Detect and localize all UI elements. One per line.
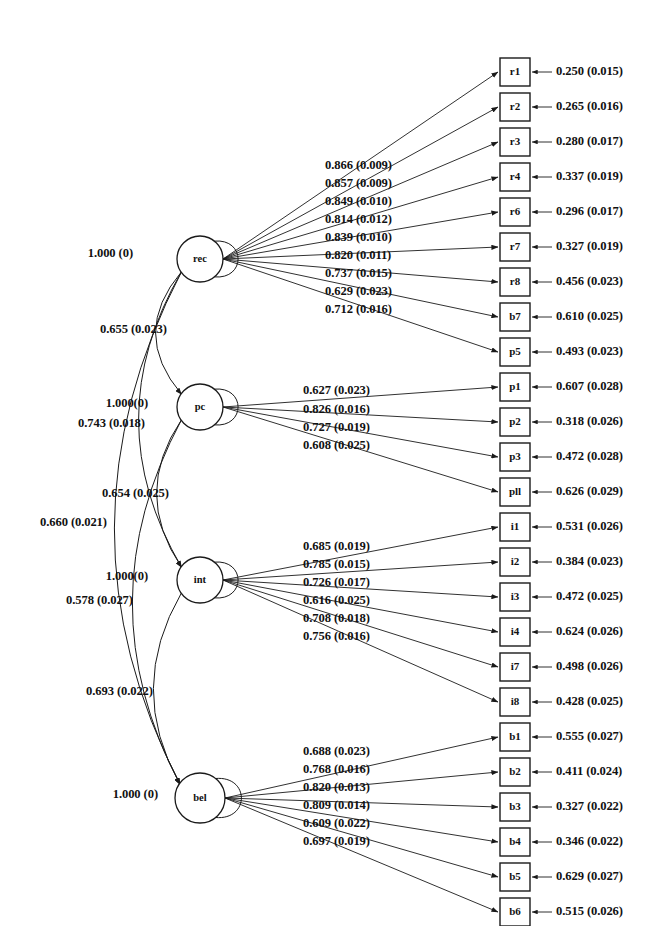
- latent-factor-label-bel: bel: [193, 792, 207, 803]
- residual-value-b4: 0.346 (0.022): [556, 834, 623, 848]
- residual-value-r3: 0.280 (0.017): [556, 134, 623, 148]
- indicator-label-b3: b3: [509, 800, 521, 812]
- latent-factor-label-int: int: [194, 574, 207, 585]
- loading-value-rec-8: 0.712 (0.016): [325, 302, 392, 316]
- loading-value-bel-4: 0.609 (0.022): [303, 816, 370, 830]
- residual-value-i1: 0.531 (0.026): [556, 519, 623, 533]
- loading-value-int-1: 0.785 (0.015): [303, 557, 370, 571]
- loading-value-pc-2: 0.727 (0.019): [303, 420, 370, 434]
- diagram-canvas: r1r2r3r4r6r7r8b7p5p1p2p3plli1i2i3i4i7i8b…: [0, 0, 656, 926]
- indicator-label-p3: p3: [509, 450, 521, 462]
- residual-value-b2: 0.411 (0.024): [556, 764, 622, 778]
- indicator-label-r7: r7: [510, 240, 521, 252]
- cov-pc-bel-label: 0.578 (0.027): [66, 593, 133, 607]
- residual-value-b7: 0.610 (0.025): [556, 309, 623, 323]
- indicator-label-r6: r6: [510, 205, 521, 217]
- residual-value-i2: 0.384 (0.023): [556, 554, 623, 568]
- residual-value-p5: 0.493 (0.023): [556, 344, 623, 358]
- parameter-text-layer: 0.250 (0.015)0.265 (0.016)0.280 (0.017)0…: [40, 64, 623, 918]
- rec-variance-label: 1.000 (0): [88, 246, 133, 260]
- loading-value-rec-2: 0.849 (0.010): [325, 194, 392, 208]
- loading-value-bel-5: 0.697 (0.019): [303, 834, 370, 848]
- bel-variance-label: 1.000 (0): [113, 787, 158, 801]
- residual-value-b5: 0.629 (0.027): [556, 869, 623, 883]
- residual-value-b6: 0.515 (0.026): [556, 904, 623, 918]
- indicator-label-b7: b7: [509, 310, 521, 322]
- indicator-label-b4: b4: [509, 835, 521, 847]
- loading-value-rec-7: 0.629 (0.023): [325, 284, 392, 298]
- residual-value-i8: 0.428 (0.025): [556, 694, 623, 708]
- residual-value-p1: 0.607 (0.028): [556, 379, 623, 393]
- indicator-label-i4: i4: [511, 625, 520, 637]
- residual-value-r7: 0.327 (0.019): [556, 239, 623, 253]
- loading-value-rec-5: 0.820 (0.011): [325, 248, 391, 262]
- cov-pc-bel-curve: [132, 420, 181, 785]
- loading-value-int-3: 0.616 (0.025): [303, 593, 370, 607]
- indicator-label-p11: pll: [509, 485, 521, 497]
- loading-value-int-2: 0.726 (0.017): [303, 575, 370, 589]
- indicator-label-b6: b6: [509, 905, 521, 917]
- latent-factor-label-rec: rec: [193, 253, 207, 264]
- loading-value-rec-1: 0.857 (0.009): [325, 176, 392, 190]
- indicator-label-i2: i2: [511, 555, 520, 567]
- loading-value-int-4: 0.708 (0.018): [303, 611, 370, 625]
- residual-value-r1: 0.250 (0.015): [556, 64, 623, 78]
- latent-factor-label-pc: pc: [195, 401, 206, 412]
- indicator-label-p2: p2: [509, 415, 521, 427]
- loading-value-rec-4: 0.839 (0.010): [325, 230, 392, 244]
- loading-value-bel-3: 0.809 (0.014): [303, 798, 370, 812]
- indicator-label-r4: r4: [510, 170, 521, 182]
- residual-value-b3: 0.327 (0.022): [556, 799, 623, 813]
- residual-value-r8: 0.456 (0.023): [556, 274, 623, 288]
- residual-value-i7: 0.498 (0.026): [556, 659, 623, 673]
- loading-value-pc-1: 0.826 (0.016): [303, 402, 370, 416]
- loading-value-bel-0: 0.688 (0.023): [303, 744, 370, 758]
- loading-value-int-5: 0.756 (0.016): [303, 629, 370, 643]
- loading-value-bel-1: 0.768 (0.016): [303, 762, 370, 776]
- loading-value-int-0: 0.685 (0.019): [303, 539, 370, 553]
- indicator-label-b1: b1: [509, 730, 521, 742]
- indicator-label-b2: b2: [509, 765, 521, 777]
- indicator-label-r2: r2: [510, 100, 521, 112]
- indicator-label-r1: r1: [510, 65, 520, 77]
- cov-rec-pc-label: 0.655 (0.023): [100, 322, 167, 336]
- sem-path-diagram: r1r2r3r4r6r7r8b7p5p1p2p3plli1i2i3i4i7i8b…: [0, 0, 656, 926]
- residual-value-p11: 0.626 (0.029): [556, 484, 623, 498]
- cov-int-bel-label: 0.693 (0.022): [86, 684, 153, 698]
- loading-value-bel-2: 0.820 (0.013): [303, 780, 370, 794]
- cov-pc-int-label: 0.654 (0.025): [102, 486, 169, 500]
- residual-value-p3: 0.472 (0.028): [556, 449, 623, 463]
- indicator-label-i7: i7: [511, 660, 520, 672]
- cov-int-bel-curve: [153, 593, 181, 785]
- loading-edge-int-i1: [223, 527, 498, 580]
- loading-value-rec-6: 0.737 (0.015): [325, 266, 392, 280]
- pc-variance-label: 1.000(0): [106, 396, 148, 410]
- int-variance-label: 1.000(0): [106, 569, 148, 583]
- residual-value-p2: 0.318 (0.026): [556, 414, 623, 428]
- cov-rec-int-label: 0.743 (0.018): [78, 416, 145, 430]
- loading-value-pc-3: 0.608 (0.025): [303, 438, 370, 452]
- residual-value-r2: 0.265 (0.016): [556, 99, 623, 113]
- indicator-label-p1: p1: [509, 380, 521, 392]
- residual-value-r6: 0.296 (0.017): [556, 204, 623, 218]
- residual-value-r4: 0.337 (0.019): [556, 169, 623, 183]
- indicator-label-r3: r3: [510, 135, 521, 147]
- cov-rec-bel-label: 0.660 (0.021): [40, 515, 107, 529]
- indicator-label-i1: i1: [511, 520, 520, 532]
- residual-value-i4: 0.624 (0.026): [556, 624, 623, 638]
- indicator-label-p5: p5: [509, 345, 521, 357]
- indicator-label-i8: i8: [511, 695, 520, 707]
- residual-value-i3: 0.472 (0.025): [556, 589, 623, 603]
- residual-value-b1: 0.555 (0.027): [556, 729, 623, 743]
- residual-arrows: [532, 72, 552, 912]
- indicator-label-r8: r8: [510, 275, 521, 287]
- loading-value-pc-0: 0.627 (0.023): [303, 383, 370, 397]
- loading-value-rec-3: 0.814 (0.012): [325, 212, 392, 226]
- indicator-label-b5: b5: [509, 870, 521, 882]
- indicator-label-i3: i3: [511, 590, 520, 602]
- loading-value-rec-0: 0.866 (0.009): [325, 158, 392, 172]
